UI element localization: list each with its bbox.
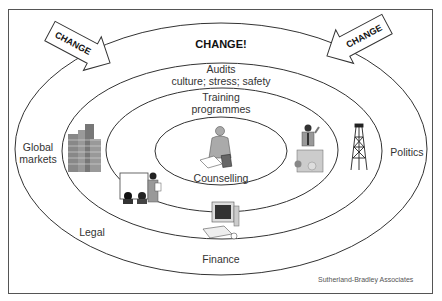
counsellor-writing-icon xyxy=(200,127,232,169)
audits-label: Audits xyxy=(161,63,281,75)
legal-label: Legal xyxy=(70,226,114,238)
finance-label: Finance xyxy=(191,253,251,265)
politics-label: Politics xyxy=(385,146,429,158)
global-markets-label-line1: Global xyxy=(14,141,62,153)
computer-icon xyxy=(203,202,239,239)
audits-sublabel: culture; stress; safety xyxy=(151,75,291,87)
credit-label: Sutherland-Bradley Associates xyxy=(318,276,413,283)
oil-derrick-icon xyxy=(351,124,367,170)
counselling-label: Counselling xyxy=(181,172,261,184)
speaker-podium-icon xyxy=(295,125,324,173)
change-arrow-left: CHANGE xyxy=(41,14,119,79)
training-label: Training xyxy=(171,91,271,103)
global-markets-label-line2: markets xyxy=(14,153,62,165)
change-arrow-right: CHANGE xyxy=(318,7,396,72)
presenter-whiteboard-icon xyxy=(120,173,161,205)
training-sublabel: programmes xyxy=(171,103,271,115)
change-title: CHANGE! xyxy=(181,38,261,50)
office-buildings-icon xyxy=(68,124,101,172)
